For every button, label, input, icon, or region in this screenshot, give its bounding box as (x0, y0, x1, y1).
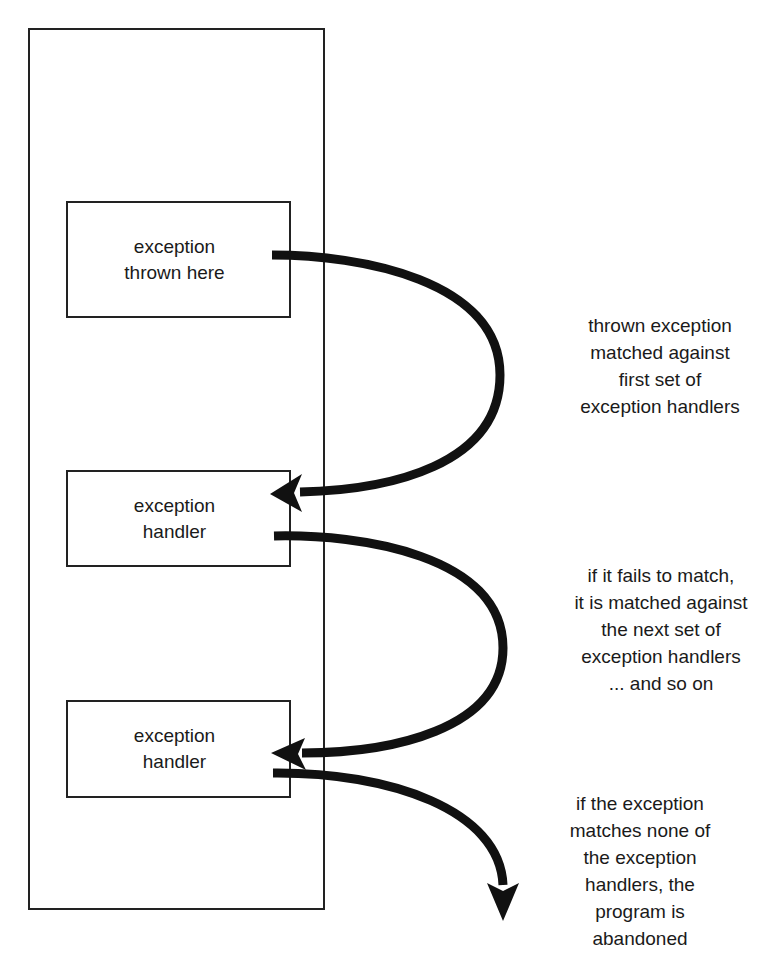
exception-handler-box-1: exception handler (66, 470, 291, 567)
caption-first-match: thrown exception matched against first s… (560, 312, 760, 420)
exception-handler-label-1: exception handler (134, 493, 215, 545)
exception-handler-label-2: exception handler (134, 723, 215, 775)
exception-thrown-box: exception thrown here (66, 201, 291, 318)
caption-next-match: if it fails to match, it is matched agai… (553, 562, 769, 697)
exception-thrown-label: exception thrown here (124, 234, 224, 286)
caption-abandoned: if the exception matches none of the exc… (560, 790, 720, 952)
exception-handler-box-2: exception handler (66, 700, 291, 798)
